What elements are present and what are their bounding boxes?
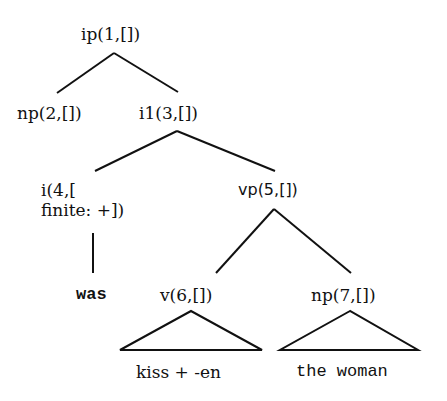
node-v: v(6,[]) [160,285,212,305]
edge-i1-vp [177,131,275,171]
leaf-kiss-en: kiss + -en [136,362,221,382]
leaf-was: was [76,285,107,305]
node-np-subject: np(2,[]) [17,103,82,123]
node-i-line1: i(4,[ [41,180,76,200]
edge-ip-np [57,53,114,93]
edge-vp-np [274,209,351,273]
leaf-the-woman: the woman [296,362,388,382]
triangle-v-leaf [120,311,262,350]
node-ip: ip(1,[]) [81,24,140,44]
node-np-object: np(7,[]) [311,285,376,305]
node-i1: i1(3,[]) [139,103,198,123]
edge-i1-i [95,131,177,171]
syntax-tree-diagram: ip(1,[]) np(2,[]) i1(3,[]) i(4,[ finite:… [0,0,447,401]
node-i-line2: finite: +]) [41,200,124,220]
edge-vp-v [216,209,274,273]
triangle-np-leaf [280,311,418,350]
node-vp: vp(5,[]) [238,180,298,200]
edge-ip-i1 [114,53,178,92]
